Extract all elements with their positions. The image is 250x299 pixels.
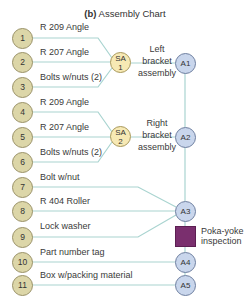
part-label: R 207 Angle (40, 47, 89, 57)
part-node-6: 6 (12, 152, 33, 173)
part-label: R 209 Angle (40, 97, 89, 107)
part-node-8: 8 (12, 201, 33, 222)
part-label: Lock washer (40, 221, 91, 231)
part-node-7: 7 (12, 177, 33, 198)
part-label: Bolts w/nuts (2) (40, 72, 102, 82)
part-node-5: 5 (12, 127, 33, 148)
part-label: R 209 Angle (40, 22, 89, 32)
subassembly-desc-2: Rightbracketassembly (136, 117, 178, 153)
subassembly-code: SA2 (115, 128, 126, 146)
inspection-square-icon (175, 226, 196, 247)
part-label: Box w/packing material (40, 270, 133, 280)
part-node-3: 3 (12, 77, 33, 98)
assembly-node-a4: A4 (175, 252, 196, 273)
inspection-label: Poka-yokeinspection (201, 226, 244, 246)
part-node-10: 10 (12, 252, 33, 273)
part-node-11: 11 (12, 275, 33, 296)
subassembly-node-2: SA2 (110, 126, 131, 147)
connector-lines (0, 0, 250, 299)
part-node-9: 9 (12, 227, 33, 248)
assembly-node-a5: A5 (175, 275, 196, 296)
part-node-2: 2 (12, 52, 33, 73)
assembly-node-a3: A3 (175, 201, 196, 222)
part-label: R 404 Roller (40, 196, 90, 206)
assembly-node-a1: A1 (175, 53, 196, 74)
subassembly-desc-1: Leftbracketassembly (136, 43, 178, 79)
part-label: Part number tag (40, 247, 105, 257)
part-node-1: 1 (12, 28, 33, 49)
assembly-node-a2: A2 (175, 127, 196, 148)
subassembly-code: SA1 (115, 54, 126, 72)
part-label: R 207 Angle (40, 122, 89, 132)
part-label: Bolts w/nuts (2) (40, 147, 102, 157)
part-node-4: 4 (12, 102, 33, 123)
part-label: Bolt w/nut (40, 172, 80, 182)
subassembly-node-1: SA1 (110, 52, 131, 73)
